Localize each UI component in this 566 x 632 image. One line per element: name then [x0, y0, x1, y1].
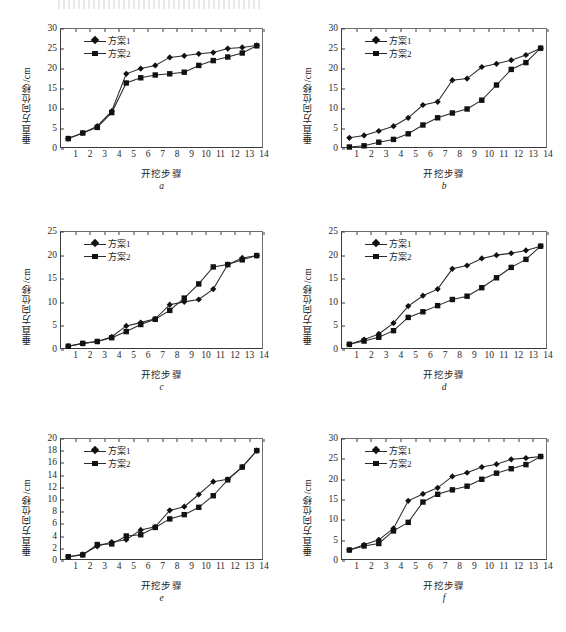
square-marker-icon: [365, 252, 387, 262]
square-marker-icon: [84, 49, 106, 59]
y-axis-tick-label: 30: [48, 24, 62, 34]
chart-panel-a: 0510152025301234567891011121314 方案1 方案2 …: [0, 10, 283, 215]
y-axis-tick-label: 0: [333, 556, 342, 566]
legend-label-series2: 方案2: [108, 251, 131, 264]
legend-item-series1: 方案1: [84, 445, 131, 458]
subfigure-caption-b: b: [341, 181, 547, 191]
y-axis-tick-label: 10: [48, 104, 62, 114]
y-axis-tick-label: 0: [52, 556, 61, 566]
y-axis-tick-label: 30: [329, 24, 343, 34]
legend-label-series1: 方案1: [389, 445, 412, 458]
y-axis-tick-label: 0: [52, 144, 61, 154]
y-axis-label-d: 垂直方向位移/cm: [301, 239, 315, 345]
x-axis-label-f: 开挖步骤: [341, 578, 547, 592]
y-axis-tick-label: 15: [329, 84, 343, 94]
legend-label-series1: 方案1: [108, 238, 131, 251]
subfigure-caption-c: c: [60, 382, 263, 392]
subfigure-caption-e: e: [60, 593, 263, 603]
y-axis-tick-label: 10: [329, 104, 343, 114]
y-axis-label-c: 垂直方向位移/cm: [20, 239, 34, 345]
y-axis-tick-label: 0: [333, 144, 342, 154]
x-axis-label-a: 开挖步骤: [60, 166, 263, 180]
legend-item-series2: 方案2: [84, 458, 131, 471]
subfigure-caption-d: d: [341, 382, 547, 392]
x-axis-label-e: 开挖步骤: [60, 578, 263, 592]
diamond-marker-icon: [84, 446, 106, 456]
x-axis-label-c: 开挖步骤: [60, 367, 263, 381]
chart-cell-b: 0510152025301234567891011121314 方案1 方案2 …: [283, 10, 566, 217]
y-axis-tick-label: 5: [52, 322, 61, 332]
square-marker-icon: [365, 459, 387, 469]
y-axis-tick-label: 20: [48, 64, 62, 74]
legend-d: 方案1 方案2: [365, 238, 412, 263]
y-axis-tick-label: 20: [329, 251, 343, 261]
chart-panel-c: 05101520251234567891011121314 方案1 方案2 垂直…: [0, 217, 283, 422]
y-axis-tick-label: 2: [52, 544, 61, 554]
y-axis-label-f: 垂直方向位移/cm: [301, 446, 315, 556]
legend-item-series2: 方案2: [84, 48, 131, 61]
legend-label-series1: 方案1: [389, 238, 412, 251]
y-axis-tick-label: 20: [329, 475, 343, 485]
legend-e: 方案1 方案2: [84, 445, 131, 470]
chart-cell-a: 0510152025301234567891011121314 方案1 方案2 …: [0, 10, 283, 217]
y-axis-tick-label: 5: [52, 124, 61, 134]
legend-item-series1: 方案1: [365, 35, 412, 48]
chart-grid: 0510152025301234567891011121314 方案1 方案2 …: [0, 10, 566, 632]
diamond-marker-icon: [365, 446, 387, 456]
legend-b: 方案1 方案2: [365, 35, 412, 60]
legend-item-series2: 方案2: [84, 251, 131, 264]
y-axis-tick-label: 5: [333, 536, 342, 546]
y-axis-tick-label: 10: [329, 298, 343, 308]
y-axis-tick-label: 16: [48, 459, 62, 469]
y-axis-tick-label: 8: [52, 507, 61, 517]
legend-label-series2: 方案2: [108, 48, 131, 61]
legend-f: 方案1 方案2: [365, 445, 412, 470]
chart-panel-b: 0510152025301234567891011121314 方案1 方案2 …: [283, 10, 566, 215]
diamond-marker-icon: [365, 36, 387, 46]
series-line-1: [68, 256, 257, 347]
y-axis-label-b: 垂直方向位移/cm: [301, 36, 315, 144]
y-axis-tick-label: 15: [48, 84, 62, 94]
legend-label-series2: 方案2: [108, 458, 131, 471]
legend-item-series2: 方案2: [365, 251, 412, 264]
y-axis-tick-label: 25: [329, 44, 343, 54]
scan-artifact-header: [58, 0, 263, 9]
y-axis-tick-label: 5: [333, 124, 342, 134]
square-marker-icon: [84, 459, 106, 469]
x-axis-label-b: 开挖步骤: [341, 166, 547, 180]
y-axis-tick-label: 25: [329, 227, 343, 237]
y-axis-tick-label: 12: [48, 483, 62, 493]
legend-label-series2: 方案2: [389, 458, 412, 471]
y-axis-tick-label: 25: [48, 227, 62, 237]
y-axis-tick-label: 6: [52, 520, 61, 530]
legend-item-series2: 方案2: [365, 458, 412, 471]
y-axis-label-a: 垂直方向位移/cm: [20, 36, 34, 144]
diamond-marker-icon: [84, 36, 106, 46]
legend-label-series2: 方案2: [389, 48, 412, 61]
legend-label-series1: 方案1: [108, 35, 131, 48]
y-axis-tick-label: 20: [329, 64, 343, 74]
legend-item-series1: 方案1: [84, 238, 131, 251]
legend-item-series1: 方案1: [365, 238, 412, 251]
chart-cell-e: 024681012141618201234567891011121314 方案1…: [0, 422, 283, 632]
diamond-marker-icon: [84, 239, 106, 249]
y-axis-tick-label: 5: [333, 322, 342, 332]
y-axis-tick-label: 18: [48, 446, 62, 456]
y-axis-tick-label: 20: [48, 251, 62, 261]
square-marker-icon: [365, 49, 387, 59]
subfigure-caption-f: f: [341, 593, 547, 603]
y-axis-tick-label: 10: [48, 298, 62, 308]
legend-label-series2: 方案2: [389, 251, 412, 264]
square-marker-icon: [84, 252, 106, 262]
diamond-marker-icon: [365, 239, 387, 249]
y-axis-tick-label: 0: [333, 345, 342, 355]
chart-cell-f: 0510152025301234567891011121314 方案1 方案2 …: [283, 422, 566, 632]
chart-cell-d: 05101520251234567891011121314 方案1 方案2 垂直…: [283, 217, 566, 422]
subfigure-caption-a: a: [60, 181, 263, 191]
y-axis-tick-label: 10: [329, 516, 343, 526]
y-axis-tick-label: 15: [329, 274, 343, 284]
legend-item-series1: 方案1: [365, 445, 412, 458]
series-line-2: [68, 256, 257, 347]
chart-panel-d: 05101520251234567891011121314 方案1 方案2 垂直…: [283, 217, 566, 422]
y-axis-tick-label: 30: [329, 434, 343, 444]
